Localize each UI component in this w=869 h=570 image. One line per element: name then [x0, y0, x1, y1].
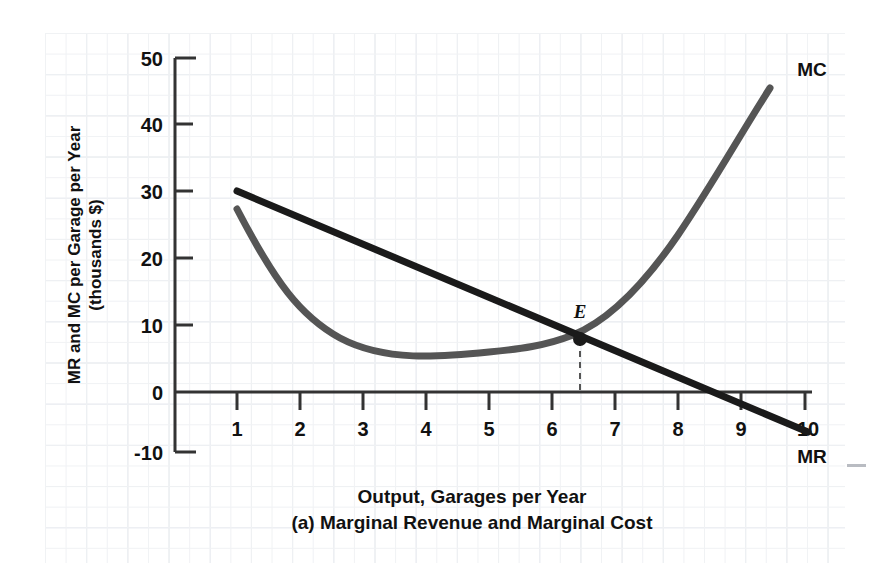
x-tick-label-8: 8 — [672, 418, 683, 440]
figure-panel: 50 40 30 20 10 0 -10 1 2 3 4 5 6 7 8 9 1… — [0, 0, 869, 570]
equilibrium-point-marker — [573, 332, 587, 346]
mr-line — [237, 191, 808, 432]
y-tick-label-0: 0 — [152, 382, 163, 404]
y-axis-title-line1: MR and MC per Garage per Year — [65, 125, 84, 384]
y-tick-label-40: 40 — [141, 114, 163, 136]
mr-series-label: MR — [797, 446, 827, 467]
y-tick-label-20: 20 — [141, 248, 163, 270]
y-tick-label-minus10: -10 — [134, 442, 163, 464]
equilibrium-point-label: E — [573, 301, 587, 322]
x-tick-label-2: 2 — [294, 418, 305, 440]
x-tick-label-4: 4 — [420, 418, 432, 440]
x-tick-label-3: 3 — [357, 418, 368, 440]
mc-series-label: MC — [797, 59, 827, 80]
x-tick-label-5: 5 — [483, 418, 494, 440]
x-tick-label-9: 9 — [735, 418, 746, 440]
y-tick-label-50: 50 — [141, 48, 163, 70]
x-tick-label-1: 1 — [231, 418, 242, 440]
y-tick-label-30: 30 — [141, 181, 163, 203]
chart-svg: 50 40 30 20 10 0 -10 1 2 3 4 5 6 7 8 9 1… — [0, 0, 869, 570]
x-axis-title: Output, Garages per Year — [358, 486, 587, 507]
y-axis-title-line2: (thousands $) — [86, 199, 105, 310]
figure-caption: (a) Marginal Revenue and Marginal Cost — [291, 512, 653, 533]
y-tick-label-10: 10 — [141, 315, 163, 337]
x-tick-label-6: 6 — [546, 418, 557, 440]
x-tick-label-7: 7 — [609, 418, 620, 440]
